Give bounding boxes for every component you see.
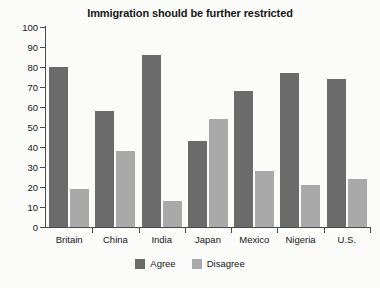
x-axis-label: China <box>92 234 138 245</box>
legend-item-agree: Agree <box>135 258 175 269</box>
category-separator <box>139 227 140 233</box>
y-axis-tick-label: 40 <box>0 142 38 153</box>
bar-agree <box>188 141 207 227</box>
bar-agree <box>280 73 299 227</box>
bar-group <box>277 27 323 227</box>
bar-agree <box>49 67 68 227</box>
bar-group <box>185 27 231 227</box>
category-separator <box>324 227 325 233</box>
y-axis-tick-label: 10 <box>0 202 38 213</box>
x-axis-label: India <box>139 234 185 245</box>
bar-agree <box>95 111 114 227</box>
bar-agree <box>142 55 161 227</box>
bar-disagree <box>301 185 320 227</box>
category-separator <box>370 227 371 233</box>
x-axis-label: Nigeria <box>277 234 323 245</box>
plot-area <box>46 27 370 227</box>
bar-group <box>231 27 277 227</box>
category-separator <box>92 227 93 233</box>
x-axis-label: Britain <box>46 234 92 245</box>
legend-swatch-icon <box>135 259 145 269</box>
y-axis-tick-labels: 0102030405060708090100 <box>0 0 38 288</box>
x-axis-line <box>45 227 370 228</box>
bar-group <box>324 27 370 227</box>
y-axis-tick-label: 100 <box>0 22 38 33</box>
y-axis-tick-label: 50 <box>0 122 38 133</box>
y-axis-tick-label: 20 <box>0 182 38 193</box>
bar-disagree <box>209 119 228 227</box>
chart-legend: AgreeDisagree <box>0 258 380 269</box>
bar-chart: Immigration should be further restricted… <box>0 0 380 288</box>
bar-disagree <box>70 189 89 227</box>
bar-disagree <box>255 171 274 227</box>
y-axis-tick-label: 0 <box>0 222 38 233</box>
bar-group <box>46 27 92 227</box>
category-separator <box>185 227 186 233</box>
y-axis-tick-label: 80 <box>0 62 38 73</box>
bar-group <box>139 27 185 227</box>
legend-label: Disagree <box>207 258 245 269</box>
legend-swatch-icon <box>192 259 202 269</box>
bar-disagree <box>348 179 367 227</box>
y-axis-tick-label: 90 <box>0 42 38 53</box>
bar-disagree <box>116 151 135 227</box>
y-axis-tick-label: 30 <box>0 162 38 173</box>
x-axis-label: Japan <box>185 234 231 245</box>
bar-agree <box>327 79 346 227</box>
x-axis-label: U.S. <box>324 234 370 245</box>
x-axis-label: Mexico <box>231 234 277 245</box>
legend-label: Agree <box>150 258 175 269</box>
legend-item-disagree: Disagree <box>192 258 245 269</box>
bar-group <box>92 27 138 227</box>
y-axis-tick-label: 60 <box>0 102 38 113</box>
bar-agree <box>234 91 253 227</box>
bar-disagree <box>163 201 182 227</box>
chart-title: Immigration should be further restricted <box>0 7 380 19</box>
category-separator <box>231 227 232 233</box>
y-axis-tick-label: 70 <box>0 82 38 93</box>
category-separator <box>277 227 278 233</box>
